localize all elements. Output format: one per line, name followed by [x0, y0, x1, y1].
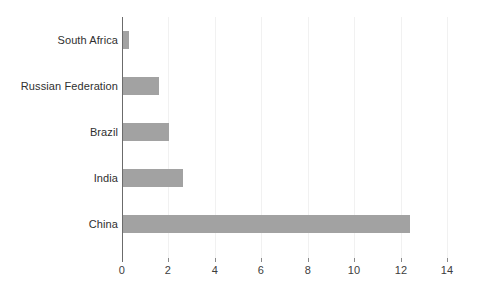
x-tick-mark-2: [168, 258, 169, 262]
bar-brazil: [123, 123, 169, 141]
x-tick-mark-6: [261, 258, 262, 262]
x-tick-label-2: 2: [148, 264, 188, 277]
x-tick-mark-14: [447, 258, 448, 262]
x-tick-label-6: 6: [241, 264, 281, 277]
x-tick-label-10: 10: [334, 264, 374, 277]
x-tick-label-0: 0: [102, 264, 142, 277]
gridline-14: [447, 17, 448, 258]
x-tick-label-8: 8: [288, 264, 328, 277]
category-label-brazil: Brazil: [0, 126, 118, 139]
plot-area: South Africa Russian Federation Brazil I…: [0, 0, 481, 290]
x-tick-label-4: 4: [195, 264, 235, 277]
bar-china: [123, 215, 410, 233]
x-tick-mark-0: [122, 258, 123, 262]
x-tick-mark-8: [308, 258, 309, 262]
bar-south-africa: [123, 31, 129, 49]
x-tick-mark-4: [215, 258, 216, 262]
category-label-china: China: [0, 218, 118, 231]
category-label-south-africa: South Africa: [0, 34, 118, 47]
bar-india: [123, 169, 183, 187]
x-tick-mark-10: [354, 258, 355, 262]
bar-russian-federation: [123, 77, 159, 95]
x-tick-label-12: 12: [381, 264, 421, 277]
category-label-india: India: [0, 172, 118, 185]
x-tick-mark-12: [401, 258, 402, 262]
category-label-russian-federation: Russian Federation: [0, 80, 118, 93]
bar-chart: South Africa Russian Federation Brazil I…: [0, 0, 481, 290]
x-tick-label-14: 14: [427, 264, 467, 277]
